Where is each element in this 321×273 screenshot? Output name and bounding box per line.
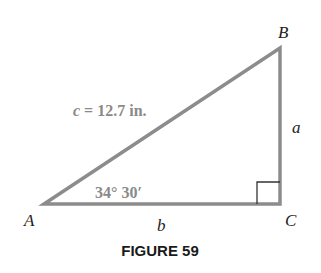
angle-a-label: 34° 30′: [95, 184, 142, 201]
right-triangle: [44, 48, 280, 204]
vertex-label-a: A: [23, 211, 35, 230]
vertex-label-c: C: [285, 211, 297, 230]
hypotenuse-value: = 12.7 in.: [80, 102, 146, 119]
figure-caption: FIGURE 59: [121, 242, 199, 259]
hypotenuse-var: c: [73, 102, 80, 119]
side-label-b: b: [157, 216, 166, 235]
hypotenuse-label: c = 12.7 in.: [73, 102, 147, 119]
triangle-diagram: B A C a b c = 12.7 in. 34° 30′ FIGURE 59: [0, 0, 321, 273]
right-angle-marker: [257, 182, 280, 204]
side-label-a: a: [292, 118, 301, 137]
vertex-label-b: B: [278, 23, 289, 42]
